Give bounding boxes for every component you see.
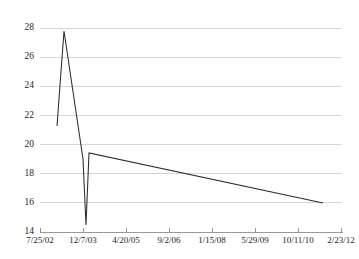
- x-axis-tick-label: 5/29/09: [241, 235, 269, 245]
- y-axis-tick-label: 28: [25, 22, 35, 32]
- y-axis-tick-label: 26: [25, 51, 35, 61]
- x-axis-tick-label: 12/7/03: [69, 235, 97, 245]
- y-axis-tick-label: 22: [25, 110, 35, 120]
- y-axis-tick-label: 18: [25, 168, 35, 178]
- x-axis: [40, 228, 343, 232]
- x-axis-tick-label: 1/15/08: [198, 235, 226, 245]
- y-axis-tick-label: 20: [25, 139, 35, 149]
- x-axis-tick-label: 4/20/05: [112, 235, 140, 245]
- series-line: [57, 31, 323, 225]
- y-axis-tick-label: 16: [25, 197, 35, 207]
- gridlines: [40, 28, 341, 203]
- y-axis-tick-label: 24: [25, 80, 35, 90]
- x-axis-tick-label: 7/25/02: [26, 235, 54, 245]
- chart-canvas: 1416182022242628 7/25/0212/7/034/20/059/…: [0, 0, 359, 259]
- x-axis-tick-labels: 7/25/0212/7/034/20/059/2/061/15/085/29/0…: [26, 235, 355, 245]
- x-axis-tick-label: 10/11/10: [282, 235, 314, 245]
- x-axis-tick-label: 9/2/06: [157, 235, 181, 245]
- x-axis-tick-label: 2/23/12: [327, 235, 355, 245]
- data-series: [57, 31, 323, 225]
- line-chart: 1416182022242628 7/25/0212/7/034/20/059/…: [0, 0, 359, 259]
- y-axis-tick-labels: 1416182022242628: [25, 22, 35, 236]
